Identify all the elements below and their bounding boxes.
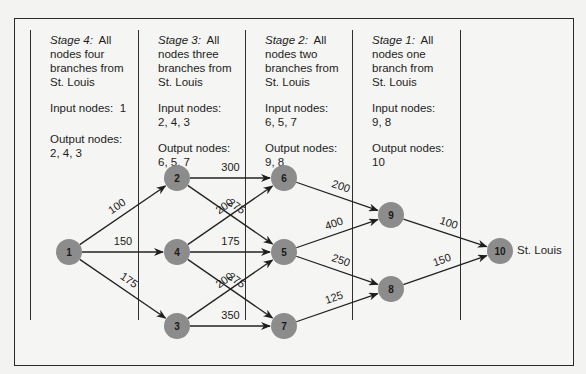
edge-weight-label: 300 (221, 161, 239, 173)
node-label: 8 (388, 284, 394, 295)
edge-weight-label: 350 (221, 309, 239, 321)
node-label: 1 (66, 247, 72, 258)
node-label: 10 (494, 246, 506, 257)
node-label: 2 (174, 173, 180, 184)
node-label: 7 (281, 321, 287, 332)
edge-weight-label: 125 (323, 288, 344, 305)
node-label: 3 (174, 321, 180, 332)
edge-weight-label: 100 (106, 196, 128, 216)
edge-weight-label: 150 (114, 235, 132, 247)
edge-weight-label: 400 (323, 214, 344, 231)
node-label: 9 (388, 210, 394, 221)
edge-weight-label: 250 (330, 251, 351, 268)
network-graph: 1001501753002752001752752003502004002501… (0, 0, 586, 374)
edge-weight-label: 200 (330, 177, 351, 194)
destination-label: St. Louis (517, 244, 562, 256)
node-label: 6 (281, 173, 287, 184)
node-label: 4 (174, 247, 180, 258)
edge-weight-label: 175 (221, 235, 239, 247)
edge-weight-label: 175 (118, 270, 140, 290)
edge-weight-label: 100 (438, 214, 459, 231)
edge-weight-label: 150 (431, 251, 452, 268)
edge-1-3 (80, 259, 166, 318)
node-label: 5 (281, 247, 287, 258)
